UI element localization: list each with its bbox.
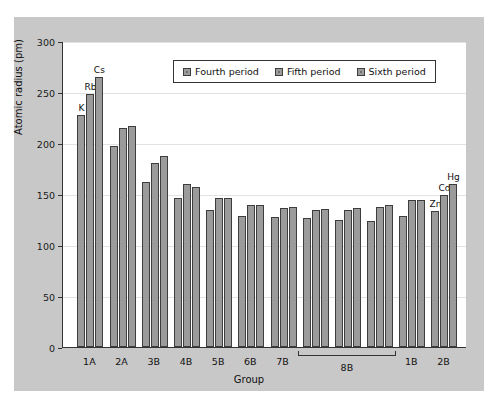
y-tick-label: 150 (37, 190, 55, 201)
y-tick-label: 50 (43, 292, 55, 303)
chart-figure: Atomic radius (pm) 050100150200250300 KR… (14, 17, 484, 391)
bar-group (332, 42, 364, 347)
bar (160, 156, 168, 347)
y-tick-label: 250 (37, 88, 55, 99)
x-tick-label: 2B (437, 356, 450, 367)
chart-legend: Fourth period Fifth period Sixth period (173, 60, 436, 83)
x-tick-label: 7B (276, 356, 289, 367)
bar (408, 200, 416, 347)
y-tick-label: 200 (37, 139, 55, 150)
bar (238, 216, 246, 347)
legend-item-fourth-period: Fourth period (183, 66, 259, 77)
bar (183, 184, 191, 347)
bar (321, 209, 329, 347)
bars-container: KRbCsZnCdHg (63, 42, 466, 347)
bar-value-label: Hg (447, 172, 459, 182)
bar: Zn (431, 211, 439, 347)
bar (303, 218, 311, 347)
bar (376, 207, 384, 347)
x-tick-label: 2A (115, 356, 128, 367)
bar (271, 217, 279, 347)
legend-label: Fourth period (195, 66, 259, 77)
bar-group (300, 42, 332, 347)
y-tick-label: 0 (49, 343, 55, 354)
bar (344, 210, 352, 347)
bar (151, 163, 159, 347)
bar (335, 220, 343, 348)
bar (367, 221, 375, 347)
bar (353, 208, 361, 347)
legend-swatch-icon (357, 68, 365, 76)
bar-group (364, 42, 396, 347)
bar (142, 182, 150, 347)
legend-label: Sixth period (369, 66, 426, 77)
bar: Hg (449, 184, 457, 347)
bar: Rb (86, 94, 94, 347)
bar (224, 198, 232, 347)
bar-group (396, 42, 428, 347)
bar (417, 200, 425, 347)
bar (312, 210, 320, 347)
plot-area: KRbCsZnCdHg Fourth period Fifth period S… (62, 42, 466, 348)
x-tick-label: 4B (180, 356, 193, 367)
x-tick-label: 3B (147, 356, 160, 367)
bar-group (171, 42, 203, 347)
legend-swatch-icon (183, 68, 191, 76)
bar (110, 146, 118, 347)
bar-group (139, 42, 171, 347)
y-axis-title: Atomic radius (pm) (13, 39, 24, 135)
bar-group (267, 42, 299, 347)
x-tick-label: 8B (341, 362, 354, 373)
x-tick-label: 6B (244, 356, 257, 367)
bar (128, 126, 136, 347)
y-tick-label: 300 (37, 37, 55, 48)
bar-group (106, 42, 138, 347)
bar (256, 205, 264, 347)
legend-label: Fifth period (287, 66, 341, 77)
bar: K (77, 115, 85, 347)
bar (280, 208, 288, 347)
bar (174, 198, 182, 347)
x-axis-title: Group (14, 374, 484, 385)
bar (247, 205, 255, 347)
bar (206, 210, 214, 347)
bar-group: KRbCs (74, 42, 106, 347)
legend-item-sixth-period: Sixth period (357, 66, 426, 77)
x-tick-label: 1A (83, 356, 96, 367)
bar (215, 198, 223, 347)
bar-group (235, 42, 267, 347)
x-tick-label: 5B (212, 356, 225, 367)
y-tick-mark (58, 348, 62, 349)
x-tick-label: 1B (405, 356, 418, 367)
bar-value-label: K (78, 103, 84, 113)
legend-item-fifth-period: Fifth period (275, 66, 341, 77)
bar-group (203, 42, 235, 347)
bar (119, 128, 127, 347)
bar (192, 187, 200, 347)
bar (399, 216, 407, 347)
bar: Cs (95, 77, 103, 347)
bar (289, 207, 297, 347)
group-8b-bracket (298, 351, 396, 356)
y-tick-label: 100 (37, 241, 55, 252)
bar-group: ZnCdHg (428, 42, 460, 347)
bar-value-label: Cs (94, 65, 105, 75)
bar: Cd (440, 195, 448, 347)
legend-swatch-icon (275, 68, 283, 76)
bar (385, 205, 393, 347)
